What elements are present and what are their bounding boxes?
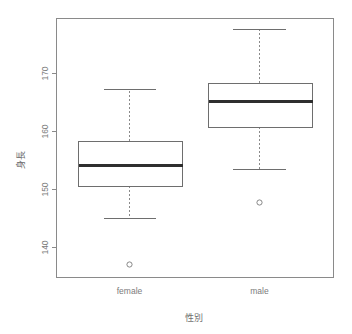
male-outlier-point: [257, 200, 262, 205]
y-axis-title: 身長: [15, 151, 26, 169]
boxplot-canvas: 170 160 150 140 身長: [0, 0, 352, 334]
y-tick-label-170: 170: [40, 66, 50, 80]
y-tick-label-150: 150: [40, 182, 50, 196]
y-tick-label-160: 160: [40, 124, 50, 138]
y-axis-tick-labels: 170 160 150 140: [40, 66, 50, 254]
box-group-female: [79, 89, 183, 267]
y-tick-label-140: 140: [40, 240, 50, 254]
x-axis-title: 性別: [185, 312, 203, 323]
x-category-label-male: male: [250, 286, 269, 296]
x-category-label-female: female: [117, 286, 143, 296]
male-iqr-box: [209, 84, 313, 128]
female-iqr-box: [79, 142, 183, 187]
y-axis-ticks: [52, 74, 57, 248]
boxplot-figure: 170 160 150 140 身長: [0, 0, 352, 334]
female-outlier-point: [127, 262, 132, 267]
box-group-male: [209, 29, 313, 205]
